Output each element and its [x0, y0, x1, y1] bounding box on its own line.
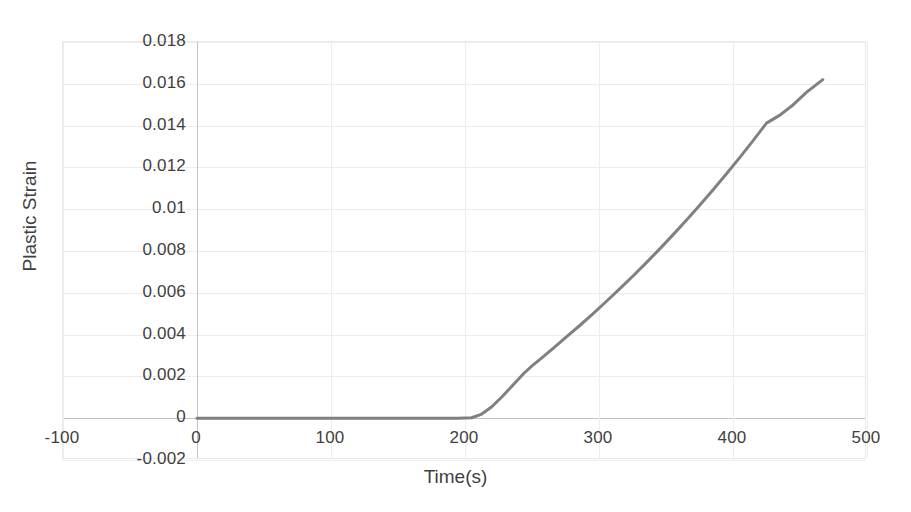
y-tick-label: 0.004 — [142, 325, 186, 342]
series-line-0 — [197, 80, 823, 419]
x-tick-label: 300 — [584, 429, 613, 446]
y-tick-label: 0 — [176, 408, 186, 425]
y-tick-label: 0.008 — [142, 241, 186, 258]
y-tick-label: 0.006 — [142, 283, 186, 300]
x-tick-label: 400 — [718, 429, 747, 446]
x-tick-label: -100 — [45, 429, 80, 446]
x-axis-title: Time(s) — [0, 466, 911, 488]
plastic-strain-chart: Plastic Strain -0.00200.0020.0040.0060.0… — [0, 0, 911, 512]
gridline-vertical — [867, 42, 868, 458]
y-axis-title: Plastic Strain — [19, 116, 41, 316]
y-tick-label: -0.002 — [137, 450, 186, 467]
x-tick-label: 100 — [316, 429, 345, 446]
x-tick-label: 0 — [191, 429, 201, 446]
y-tick-label: 0.018 — [142, 32, 186, 49]
y-tick-label: 0.014 — [142, 116, 186, 133]
y-tick-label: 0.016 — [142, 74, 186, 91]
y-tick-label: 0.01 — [152, 199, 186, 216]
x-tick-label: 200 — [450, 429, 479, 446]
y-tick-label: 0.002 — [142, 366, 186, 383]
y-tick-label: 0.012 — [142, 157, 186, 174]
x-tick-label: 500 — [852, 429, 881, 446]
